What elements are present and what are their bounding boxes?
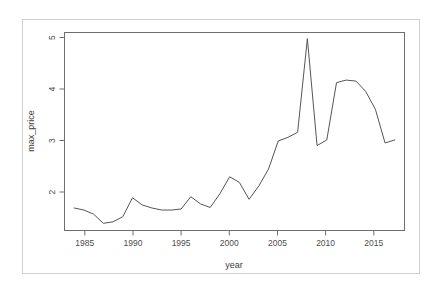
data-line-max-price: [74, 39, 395, 224]
x-tick-label-2005: 2005: [268, 238, 287, 248]
x-axis-title: year: [225, 260, 243, 270]
y-tick-label-4: 4: [47, 86, 57, 91]
plot-box-border: [65, 33, 405, 231]
x-tick-label-2010: 2010: [316, 238, 335, 248]
plot-figure: 5 4 3 2 1985 1990 1995 2000 2005 2010 20…: [0, 0, 442, 293]
x-tick-label-1985: 1985: [75, 238, 94, 248]
x-axis-ticks: [65, 231, 405, 236]
x-tick-label-1990: 1990: [124, 238, 143, 248]
y-tick-label-3: 3: [47, 138, 57, 143]
x-tick-label-2015: 2015: [364, 238, 383, 248]
y-axis-ticks: [60, 33, 65, 231]
y-axis-title: max_price: [26, 110, 36, 152]
y-tick-label-5: 5: [47, 35, 57, 40]
x-tick-label-1995: 1995: [172, 238, 191, 248]
x-tick-label-2000: 2000: [220, 238, 239, 248]
plot-canvas: 5 4 3 2 1985 1990 1995 2000 2005 2010 20…: [0, 0, 442, 293]
y-tick-label-2: 2: [47, 189, 57, 194]
